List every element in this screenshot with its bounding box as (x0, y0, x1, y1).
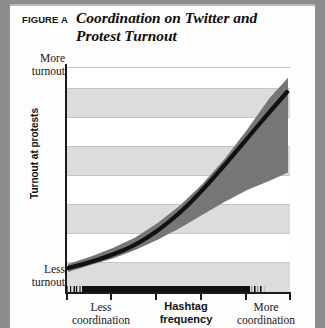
plot-area (66, 66, 290, 292)
y-axis-max-label-line1: More (0, 52, 65, 65)
y-axis-min-label-line2: turnout (0, 276, 65, 289)
figure-header: FIGURE A Coordination on Twitter and Pro… (22, 12, 304, 56)
y-axis-max-label: More turnout (0, 52, 65, 77)
x-axis-title: Hashtag frequency (147, 300, 225, 326)
x-axis-tick (245, 294, 247, 300)
x-axis-min-label-line2: coordination (58, 314, 144, 327)
x-axis-tick (289, 294, 291, 300)
y-axis-max-label-line2: turnout (0, 65, 65, 78)
x-axis-max-label-line1: More (218, 301, 314, 314)
plot-canvas (66, 66, 290, 292)
x-axis-title-line1: Hashtag (147, 300, 225, 313)
figure-tag: FIGURE A (22, 14, 68, 25)
y-axis-min-label: Less turnout (0, 263, 65, 288)
x-axis-tick (110, 294, 112, 300)
y-axis-line (65, 64, 67, 294)
x-axis-min-label-line1: Less (58, 301, 144, 314)
x-axis-max-label-line2: coordination (218, 314, 314, 327)
figure-title: Coordination on Twitter and Protest Turn… (76, 9, 304, 44)
figure-root: FIGURE A Coordination on Twitter and Pro… (0, 0, 325, 328)
confidence-band (68, 78, 288, 272)
x-axis-min-label: Less coordination (58, 301, 144, 326)
x-axis-title-line2: frequency (147, 313, 225, 326)
y-axis-title: Turnout at protests (29, 94, 40, 214)
header-divider (10, 4, 315, 6)
x-axis-max-label: More coordination (218, 301, 314, 326)
y-axis-min-label-line1: Less (0, 263, 65, 276)
rug-density-strip (66, 283, 290, 292)
x-axis-tick (66, 294, 68, 300)
x-axis-line (65, 292, 291, 294)
